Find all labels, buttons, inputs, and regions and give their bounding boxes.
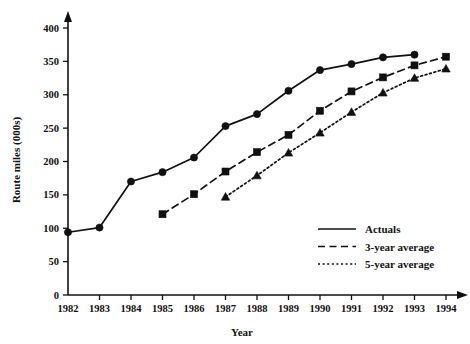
- y-axis: 050100150200250300350400: [43, 11, 72, 301]
- y-tick-label: 150: [43, 189, 59, 200]
- x-tick-label: 1994: [436, 303, 458, 314]
- x-tick-label: 1992: [373, 303, 394, 314]
- series-actuals: [64, 51, 418, 236]
- data-point-marker: [348, 60, 355, 67]
- x-tick-label: 1987: [215, 303, 236, 314]
- data-point-marker: [317, 107, 324, 114]
- data-point-marker: [284, 149, 292, 157]
- data-point-marker: [190, 154, 197, 161]
- data-point-marker: [316, 128, 324, 136]
- data-point-marker: [285, 87, 292, 94]
- data-point-marker: [191, 191, 198, 198]
- chart-svg: 050100150200250300350400 198219831984198…: [0, 0, 470, 344]
- x-tick-label: 1986: [184, 303, 205, 314]
- data-point-marker: [411, 51, 418, 58]
- chart-legend: Actuals3-year average5-year average: [318, 223, 434, 270]
- data-point-marker: [411, 62, 418, 69]
- data-point-marker: [316, 66, 323, 73]
- y-tick-label: 50: [49, 256, 60, 267]
- data-point-marker: [96, 224, 103, 231]
- data-point-marker: [159, 211, 166, 218]
- x-tick-label: 1991: [341, 303, 362, 314]
- x-tick-label: 1982: [58, 303, 79, 314]
- legend-label: 3-year average: [365, 241, 434, 253]
- data-point-marker: [285, 131, 292, 138]
- route-miles-line-chart: 050100150200250300350400 198219831984198…: [0, 0, 470, 344]
- data-point-marker: [254, 149, 261, 156]
- data-point-marker: [442, 64, 450, 72]
- y-tick-label: 0: [54, 290, 59, 301]
- data-point-marker: [443, 53, 450, 60]
- data-point-marker: [64, 229, 71, 236]
- y-tick-label: 250: [43, 123, 59, 134]
- x-tick-label: 1990: [310, 303, 331, 314]
- series-line: [68, 55, 415, 233]
- data-series-group: [64, 51, 450, 236]
- y-tick-label: 400: [43, 23, 59, 34]
- y-axis-title: Route miles (000s): [10, 117, 23, 203]
- x-tick-label: 1988: [247, 303, 268, 314]
- data-point-marker: [380, 74, 387, 81]
- series-5-year-average: [221, 64, 450, 200]
- x-tick-label: 1985: [152, 303, 173, 314]
- data-point-marker: [221, 193, 229, 201]
- x-tick-label: 1983: [89, 303, 110, 314]
- y-tick-label: 200: [43, 156, 59, 167]
- data-point-marker: [379, 88, 387, 96]
- data-point-marker: [127, 178, 134, 185]
- legend-label: 5-year average: [365, 258, 434, 270]
- x-axis-title: Year: [231, 326, 253, 338]
- x-tick-label: 1993: [404, 303, 425, 314]
- y-tick-label: 350: [43, 56, 59, 67]
- y-tick-label: 300: [43, 89, 59, 100]
- data-point-marker: [347, 108, 355, 116]
- data-point-marker: [379, 54, 386, 61]
- x-axis: 1982198319841985198619871988198919901991…: [58, 291, 469, 314]
- legend-label: Actuals: [365, 223, 401, 235]
- data-point-marker: [159, 169, 166, 176]
- x-tick-label: 1984: [121, 303, 143, 314]
- x-tick-label: 1989: [278, 303, 299, 314]
- data-point-marker: [222, 168, 229, 175]
- series-3-year-average: [159, 53, 450, 218]
- data-point-marker: [222, 123, 229, 130]
- data-point-marker: [253, 111, 260, 118]
- data-point-marker: [348, 88, 355, 95]
- y-tick-label: 100: [43, 223, 59, 234]
